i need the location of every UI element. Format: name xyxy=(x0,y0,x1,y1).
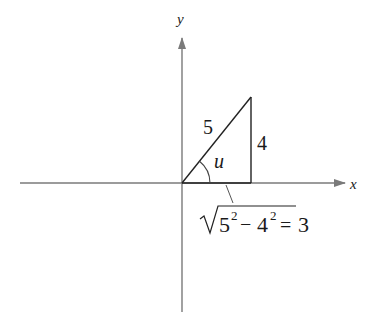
formula-exponent-1: 2 xyxy=(231,208,238,223)
formula-base-1: 5 xyxy=(219,212,230,237)
adjacent-side-formula: 5 2 − 4 2 = 3 xyxy=(219,208,309,237)
formula-equals: = xyxy=(280,214,291,236)
formula-base-2: 4 xyxy=(257,212,268,237)
formula-exponent-2: 2 xyxy=(270,208,277,223)
formula-minus: − xyxy=(240,213,251,235)
angle-label: u xyxy=(214,150,224,172)
angle-arc xyxy=(200,161,211,183)
opposite-side-label: 4 xyxy=(257,132,267,154)
y-axis-label: y xyxy=(175,11,184,27)
diagram-canvas: x y 5 4 u 5 2 − 4 2 = 3 xyxy=(0,0,381,321)
x-axis-label: x xyxy=(349,176,357,192)
formula-result: 3 xyxy=(298,212,309,237)
formula-pointer-line xyxy=(226,185,233,203)
hypotenuse-label: 5 xyxy=(203,116,213,138)
